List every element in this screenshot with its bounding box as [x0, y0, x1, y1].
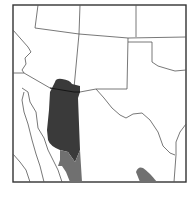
range-map [0, 0, 190, 198]
